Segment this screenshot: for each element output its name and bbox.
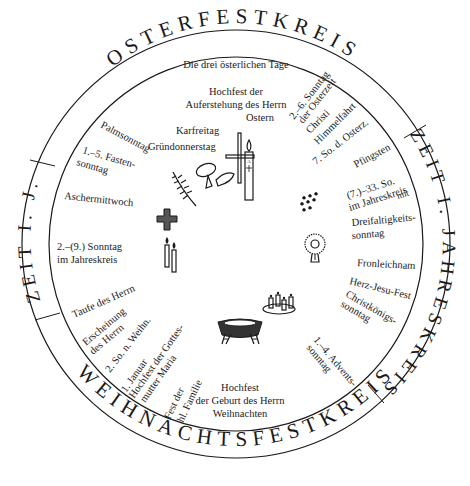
label-jahreskreis-early-2: im Jahreskreis	[57, 254, 117, 265]
label-pfingsten: Pfingsten	[352, 141, 393, 170]
label-ostern-1: Hochfest der	[209, 86, 263, 97]
label-dreifaltigkeit-1: Dreifaltigkeits-	[351, 211, 416, 228]
label-weihnachten-1: Hochfest	[221, 382, 259, 393]
svg-text:A: A	[247, 159, 251, 164]
label-weihnachten-3: Weihnachten	[213, 408, 268, 419]
palm-branch-icon	[172, 172, 196, 206]
label-jahreskreis-early-1: 2.–(9.) Sonntag	[57, 241, 123, 253]
label-triduum: Die drei österlichen Tage	[183, 59, 289, 70]
ring-divider	[35, 313, 60, 320]
label-fronleichnam: Fronleichnam	[357, 257, 416, 271]
ash-cross-icon	[157, 209, 177, 230]
label-aschermittwoch: Aschermittwoch	[64, 190, 135, 208]
label-gruendonnerstag: Gründonnerstag	[148, 141, 216, 152]
manger-icon	[218, 319, 262, 344]
pentecost-flames-icon	[300, 192, 318, 212]
advent-wreath-icon	[263, 292, 295, 314]
label-ostern-2: Auferstehung des Herrn	[186, 99, 288, 110]
candles-icon	[165, 237, 176, 272]
label-taufe: Taufe des Herrn	[70, 282, 137, 320]
label-ostern-3: Ostern	[246, 112, 275, 123]
ring-divider	[30, 160, 55, 166]
monstrance-icon	[305, 234, 325, 262]
label-palmsonntag: Palmsonntag	[99, 119, 153, 155]
label-dreifaltigkeit-2: sonntag	[351, 227, 385, 241]
ring-label-zeit-jahreskreis-left: ZEIT I. J.	[13, 175, 44, 306]
label-weihnachten-2: der Geburt des Herrn	[196, 395, 286, 406]
church-year-diagram: OSTERFESTKREIS WEIHNACHTSFESTKREIS ZEIT …	[0, 0, 470, 486]
label-karfreitag: Karfreitag	[176, 125, 220, 136]
easter-candle-icon: A	[245, 140, 253, 200]
chalice-and-bread-icon	[195, 161, 234, 188]
